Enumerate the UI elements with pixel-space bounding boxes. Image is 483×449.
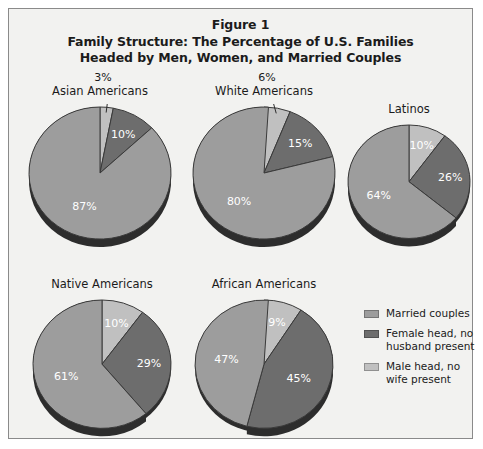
pie-slice-value: 26% xyxy=(438,171,462,184)
pie-chart-white-americans: White Americans15%80%6% xyxy=(191,104,337,250)
pie-slice-callout-value: 6% xyxy=(251,71,283,84)
pie-slice-value: 61% xyxy=(54,370,78,383)
pie-graphic: 9%45%47% xyxy=(193,297,335,439)
pie-slice-value: 10% xyxy=(104,317,128,330)
legend-item-married[interactable]: Married couples xyxy=(364,307,483,320)
figure-title: Figure 1 Family Structure: The Percentag… xyxy=(9,17,472,67)
pie-graphic: 15%80% xyxy=(191,104,337,250)
pie-chart-latinos: Latinos10%26%64% xyxy=(346,122,472,249)
chart-legend: Married couplesFemale head, no husband p… xyxy=(364,307,483,393)
pie-slice-value: 87% xyxy=(72,200,96,213)
figure-number: Figure 1 xyxy=(9,17,472,34)
pie-graphic: 10%26%64% xyxy=(346,122,472,249)
pie-graphic: 10%87% xyxy=(27,104,173,250)
pie-chart-title: Native Americans xyxy=(31,277,173,291)
pie-chart-native-americans: Native Americans10%29%61% xyxy=(31,297,173,439)
pie-chart-title: African Americans xyxy=(193,277,335,291)
pie-chart-title: Asian Americans xyxy=(27,84,173,98)
figure-title-line-1: Family Structure: The Percentage of U.S.… xyxy=(9,34,472,51)
pie-slice-value: 64% xyxy=(366,189,390,202)
legend-swatch-icon xyxy=(364,363,379,371)
figure-title-line-2: Headed by Men, Women, and Married Couple… xyxy=(9,50,472,67)
legend-item-female-head[interactable]: Female head, no husband present xyxy=(364,327,483,353)
pie-slice-value: 10% xyxy=(111,128,135,141)
legend-item-label: Male head, no wife present xyxy=(386,360,483,386)
pie-graphic: 10%29%61% xyxy=(31,297,173,439)
pie-chart-title: Latinos xyxy=(346,102,472,116)
pie-slice-value: 80% xyxy=(227,195,251,208)
legend-swatch-icon xyxy=(364,310,379,318)
pie-slice-value: 45% xyxy=(287,372,311,385)
pie-slice-value: 15% xyxy=(288,137,312,150)
pie-slice-value: 47% xyxy=(214,353,238,366)
legend-item-label: Married couples xyxy=(386,307,470,320)
pie-chart-african-americans: African Americans9%45%47% xyxy=(193,297,335,439)
legend-swatch-icon xyxy=(364,330,379,338)
pie-chart-asian-americans: Asian Americans10%87%3% xyxy=(27,104,173,250)
pie-slice-value: 29% xyxy=(137,357,161,370)
pie-slice-value: 9% xyxy=(268,316,285,329)
figure-frame: Figure 1 Family Structure: The Percentag… xyxy=(8,8,473,439)
pie-chart-title: White Americans xyxy=(191,84,337,98)
pie-slice-callout-value: 3% xyxy=(87,71,119,84)
pie-slice-value: 10% xyxy=(410,139,434,152)
legend-item-label: Female head, no husband present xyxy=(386,327,483,353)
legend-item-male-head[interactable]: Male head, no wife present xyxy=(364,360,483,386)
